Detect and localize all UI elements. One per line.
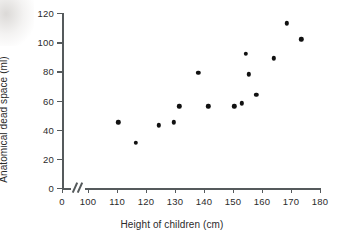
x-axis-line — [62, 188, 320, 190]
x-tick-label: 120 — [138, 196, 154, 207]
x-tick — [62, 188, 63, 193]
data-point — [284, 21, 288, 25]
y-tick-label: 120 — [24, 8, 54, 19]
y-tick — [57, 71, 62, 72]
y-tick — [57, 101, 62, 102]
x-tick — [320, 188, 321, 193]
x-tick-label: 140 — [196, 196, 212, 207]
data-point — [247, 72, 251, 76]
data-point — [239, 101, 243, 105]
y-tick-label: 80 — [24, 66, 54, 77]
scatter-plot-figure: Anatomical dead space (ml) Height of chi… — [0, 0, 344, 239]
y-tick — [57, 130, 62, 131]
y-tick — [57, 42, 62, 43]
data-point — [196, 71, 200, 75]
data-point — [134, 141, 138, 145]
y-tick-label: 0 — [24, 183, 54, 194]
data-point — [271, 56, 275, 60]
x-tick — [262, 188, 263, 193]
x-tick — [146, 188, 147, 193]
y-tick-label: 100 — [24, 37, 54, 48]
y-tick — [57, 159, 62, 160]
y-axis-label: Anatomical dead space (ml) — [0, 0, 9, 239]
data-point — [157, 123, 161, 127]
y-axis-line — [62, 13, 64, 188]
data-point — [171, 120, 175, 124]
x-tick-label: 0 — [59, 196, 64, 207]
x-axis-label: Height of children (cm) — [0, 219, 344, 230]
x-tick — [233, 188, 234, 193]
data-point — [244, 52, 248, 56]
x-tick — [175, 188, 176, 193]
x-tick — [291, 188, 292, 193]
data-point — [116, 120, 120, 124]
x-tick-label: 150 — [225, 196, 241, 207]
x-tick-label: 170 — [283, 196, 299, 207]
x-tick-label: 180 — [312, 196, 328, 207]
plot-area: 020406080100120 010011012013014015016017… — [62, 13, 320, 188]
y-tick — [57, 13, 62, 14]
x-tick-label: 160 — [254, 196, 270, 207]
x-tick-label: 100 — [80, 196, 96, 207]
data-point — [299, 37, 303, 41]
x-tick — [88, 188, 89, 193]
x-tick-label: 130 — [167, 196, 183, 207]
x-tick-label: 110 — [109, 196, 125, 207]
x-tick — [204, 188, 205, 193]
data-point — [232, 104, 236, 108]
data-point — [254, 92, 258, 96]
data-point — [177, 104, 181, 108]
x-tick — [117, 188, 118, 193]
data-point — [206, 104, 210, 108]
y-tick-label: 60 — [24, 95, 54, 106]
y-tick-label: 20 — [24, 153, 54, 164]
y-tick-label: 40 — [24, 124, 54, 135]
